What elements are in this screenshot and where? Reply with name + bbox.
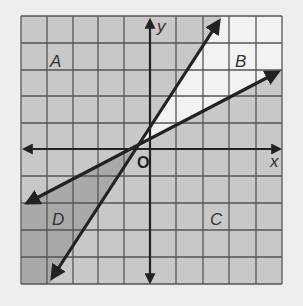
coordinate-plane: y x O A B C D <box>0 0 303 306</box>
region-d-label: D <box>52 210 64 229</box>
region-a-label: A <box>49 52 61 71</box>
origin-label: O <box>137 154 149 171</box>
x-axis-label: x <box>269 152 279 171</box>
region-c-label: C <box>210 210 223 229</box>
y-axis-label: y <box>156 17 167 36</box>
region-b-label: B <box>235 52 246 71</box>
